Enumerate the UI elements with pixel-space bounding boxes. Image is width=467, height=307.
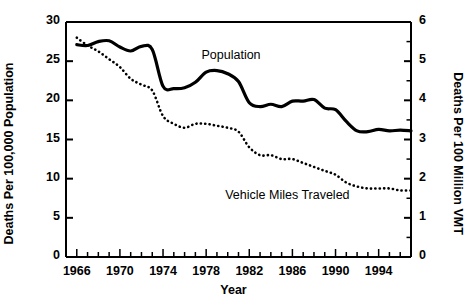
x-tick-label-1982: 1982 — [225, 264, 273, 278]
annotation-population: Population — [202, 48, 261, 62]
x-tick-label-1986: 1986 — [268, 264, 316, 278]
y-tick-label-left-20: 20 — [16, 91, 60, 105]
annotation-vehicle-miles-traveled: Vehicle Miles Traveled — [225, 188, 349, 202]
chart-plot-area — [0, 0, 467, 307]
x-tick-label-1966: 1966 — [53, 264, 101, 278]
y-tick-label-right-0: 0 — [419, 248, 443, 262]
y-tick-label-right-2: 2 — [419, 170, 443, 184]
y-tick-label-right-1: 1 — [419, 209, 443, 223]
x-tick-label-1994: 1994 — [355, 264, 403, 278]
y-tick-label-left-5: 5 — [16, 209, 60, 223]
y-axis-left-ticks — [66, 22, 73, 257]
y-tick-label-left-10: 10 — [16, 170, 60, 184]
y-tick-label-right-6: 6 — [419, 13, 443, 27]
x-tick-label-1990: 1990 — [312, 264, 360, 278]
y-tick-label-right-3: 3 — [419, 131, 443, 145]
chart-figure: Deaths Per 100,000 Population Deaths Per… — [0, 0, 467, 307]
y-axis-right-ticks — [404, 22, 411, 257]
y-tick-label-right-4: 4 — [419, 91, 443, 105]
x-axis-title: Year — [0, 283, 467, 297]
y-tick-label-left-30: 30 — [16, 13, 60, 27]
x-tick-label-1978: 1978 — [182, 264, 230, 278]
y-tick-label-left-25: 25 — [16, 52, 60, 66]
y-tick-label-left-15: 15 — [16, 131, 60, 145]
x-axis-ticks — [77, 249, 411, 257]
y-tick-label-left-0: 0 — [16, 248, 60, 262]
x-tick-label-1974: 1974 — [139, 264, 187, 278]
x-tick-label-1970: 1970 — [96, 264, 144, 278]
y-axis-right-title: Deaths Per 100 Million VMT — [449, 0, 467, 307]
y-tick-label-right-5: 5 — [419, 52, 443, 66]
